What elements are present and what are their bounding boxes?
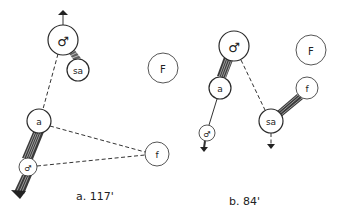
sociogram-diagram: ♂ sa F a ♂ f a. 117' [0,0,344,216]
link-male-a [43,54,58,109]
node-F: F [148,53,178,83]
node-f: f [296,77,318,99]
link-male-f [37,155,145,166]
arrow-down-icon [200,141,208,152]
svg-text:sa: sa [266,117,276,127]
svg-text:F: F [160,64,166,75]
panel-a: ♂ sa F a ♂ f a. 117' [11,10,178,203]
svg-text:a: a [36,117,42,127]
node-male-large: ♂ [48,25,78,55]
node-f: f [145,142,169,166]
svg-text:F: F [308,46,314,57]
node-male-small: ♂ [19,158,37,176]
male-symbol-icon: ♂ [228,40,240,55]
male-symbol-icon: ♂ [24,164,31,173]
svg-text:a: a [217,84,223,94]
arrow-up-icon [58,10,68,25]
node-sa: sa [67,59,89,81]
node-sa: sa [259,109,283,133]
node-male-small: ♂ [199,125,215,141]
node-a: a [209,77,231,99]
caption-a: a. 117' [76,190,114,203]
arrow-down-left-icon [11,190,26,199]
node-F: F [296,35,326,65]
node-a: a [27,109,51,133]
male-symbol-icon: ♂ [203,130,210,139]
arrow-down-icon [267,133,275,149]
male-symbol-icon: ♂ [57,34,69,49]
link-a-f [50,126,145,152]
panel-b: ♂ a F f sa ♂ b. 84' [199,31,326,208]
link-a-male-small [209,99,217,125]
caption-b: b. 84' [229,195,260,208]
link-male-sa [241,60,265,110]
svg-text:sa: sa [73,66,83,76]
node-male-large: ♂ [219,31,249,61]
